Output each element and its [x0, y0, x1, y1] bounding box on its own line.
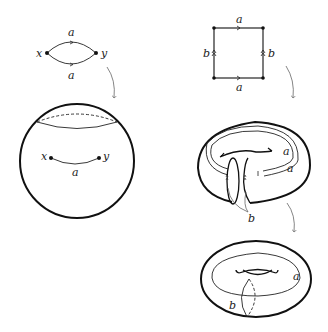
edge-arrow-icon [70, 63, 73, 66]
sphere-label-a: a [72, 166, 79, 179]
cut-torus-label-a1: a [283, 145, 290, 158]
theta-graph: a a x y [36, 26, 108, 82]
cut-disk-left [227, 158, 239, 204]
sphere-label-x: x [41, 150, 48, 163]
cut-torus-label-b: b [248, 212, 255, 225]
transition-arrow-right-1 [286, 66, 293, 98]
topology-figure: a a x y x y a a a b b [0, 0, 328, 332]
label-vertex-y: y [100, 47, 108, 60]
sphere-outline [20, 104, 134, 218]
square-label-bottom: a [236, 81, 243, 94]
torus-hole-left-tip [236, 270, 239, 273]
graph-edge-bottom [47, 53, 96, 64]
square-corner [261, 26, 265, 30]
vertex-y [94, 51, 98, 55]
torus: a b [201, 241, 311, 317]
sphere-cap-back [37, 114, 117, 122]
label-edge-bottom: a [68, 69, 75, 82]
cut-edge-right [244, 158, 250, 203]
edge-arrow-icon [70, 41, 73, 44]
torus-curve-b-front [241, 279, 249, 317]
transition-arrow-right-2 [287, 203, 294, 232]
sphere-label-y: y [102, 150, 110, 163]
torus-label-a: a [293, 270, 300, 283]
torus-label-b: b [229, 299, 236, 312]
square-corner [212, 76, 216, 80]
sphere-cap-front [37, 122, 117, 129]
sphere-point-x [49, 156, 53, 160]
torus-curve-b-back [247, 279, 255, 317]
cut-torus-label-a2: a [287, 162, 294, 175]
vertex-x [45, 51, 49, 55]
torus-hole-right-tip [276, 270, 278, 273]
transition-arrow-left [107, 67, 114, 98]
cut-torus-hole [220, 148, 272, 157]
sphere-arc-a [51, 158, 99, 164]
sphere: x y a [20, 104, 134, 218]
square-corner [261, 76, 265, 80]
square-label-right: b [268, 47, 275, 60]
square-label-top: a [236, 13, 243, 26]
square-label-left: b [203, 47, 210, 60]
label-vertex-x: x [36, 47, 43, 60]
square-corner [212, 26, 216, 30]
square-diagram: a a b b [203, 13, 275, 94]
square-outline [214, 28, 263, 78]
label-edge-top: a [68, 26, 75, 39]
cut-torus: a a b [198, 122, 310, 225]
sphere-point-y [97, 156, 101, 160]
